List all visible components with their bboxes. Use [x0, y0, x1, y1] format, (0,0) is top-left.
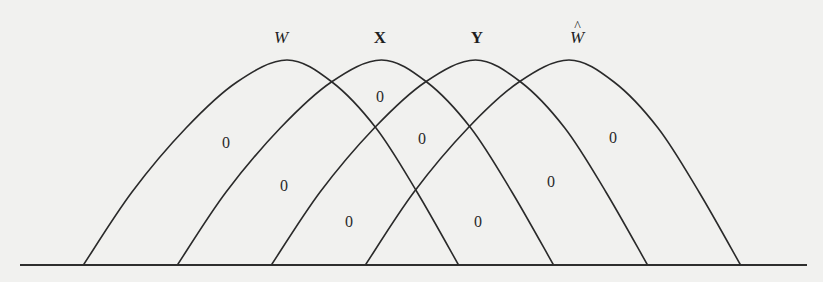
diagram-canvas: W X Y ^ W 0 0 0 0 0 0 0 0 [0, 0, 823, 282]
region-value: 0 [609, 130, 617, 146]
curve-label-w-hat: ^ W [570, 29, 584, 46]
region-value: 0 [376, 89, 384, 105]
curve-group [84, 60, 740, 264]
hat-accent: ^ [574, 20, 581, 34]
arch-curve-x [178, 60, 553, 264]
curve-label-w: W [274, 29, 288, 46]
region-value: 0 [547, 174, 555, 190]
region-value: 0 [280, 178, 288, 194]
w-hat-symbol: ^ W [570, 29, 584, 46]
region-value: 0 [474, 214, 482, 230]
region-value: 0 [222, 135, 230, 151]
curve-label-y: Y [471, 29, 483, 46]
region-value: 0 [345, 214, 353, 230]
region-value: 0 [418, 131, 426, 147]
curves-svg [0, 0, 823, 282]
arch-curve-w [84, 60, 458, 264]
arch-curve-w-hat [366, 60, 740, 264]
curve-label-x: X [374, 29, 386, 46]
arch-curve-y [272, 60, 647, 264]
